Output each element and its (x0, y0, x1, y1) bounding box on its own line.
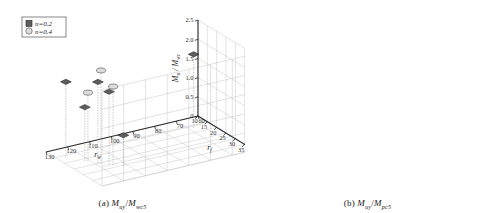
caption-a-denominator: M (128, 198, 136, 208)
z-tick-label: 90 (133, 132, 139, 139)
data-marker-n02 (118, 133, 129, 138)
z-axis-ticks: 13012011010090807060 (45, 116, 205, 160)
caption-b: (b) Muy/Mpc5 (245, 198, 490, 210)
data-marker-n02 (79, 105, 90, 110)
data-marker-n04 (96, 68, 105, 73)
z-tick-label: 80 (155, 127, 161, 134)
z-tick-label: 70 (177, 122, 183, 129)
y-tick-label: 0.5 (185, 93, 193, 100)
data-marker-n04 (109, 84, 118, 89)
panel-a: 00.51.01.52.02.5101520253035401301201101… (0, 0, 245, 213)
caption-b-denominator: M (374, 198, 382, 208)
y-axis-label: Mu / Mwc (171, 53, 181, 83)
x-tick-label: 10 (191, 117, 197, 124)
z-tick-label: 110 (88, 142, 97, 149)
legend: n=0.2n=0.4 (22, 17, 66, 37)
figure-container: 00.51.01.52.02.5101520253035401301201101… (0, 0, 490, 213)
z-tick-label: 120 (67, 147, 77, 154)
caption-b-numerator: M (357, 198, 365, 208)
z-tick-label: 60 (198, 117, 204, 124)
svg-text:Mu / Mwc: Mu / Mwc (171, 53, 181, 83)
x-tick-label: 20 (210, 129, 216, 136)
legend-swatch-n04 (26, 28, 32, 34)
z-tick-label: 130 (45, 153, 55, 160)
y-tick-label: 1.0 (185, 74, 193, 81)
grid-lines (46, 20, 245, 186)
legend-label-n04: n=0.4 (35, 28, 52, 36)
x-tick-label: 30 (229, 140, 235, 147)
x-tick-label: 15 (201, 123, 207, 130)
panel-b: 00.30.60.91.21.5101520253035401301201101… (245, 0, 490, 213)
chart-b-svg: 00.30.60.91.21.5101520253035401301201101… (245, 0, 490, 213)
y-tick-label: 2.5 (185, 16, 193, 23)
legend-swatch-n02 (26, 20, 32, 26)
caption-a: (a) Muy/Mwc5 (0, 198, 245, 210)
caption-a-label: (a) (99, 198, 110, 208)
caption-b-label: (b) (344, 198, 355, 208)
data-marker-n04 (83, 90, 92, 95)
data-marker-n02 (60, 79, 71, 84)
data-marker-n02 (92, 79, 103, 84)
x-tick-label: 35 (238, 146, 244, 153)
y-tick-label: 2.0 (185, 36, 193, 43)
chart-a-svg: 00.51.01.52.02.5101520253035401301201101… (0, 0, 245, 213)
z-tick-label: 100 (110, 137, 120, 144)
x-tick-label: 25 (219, 134, 225, 141)
